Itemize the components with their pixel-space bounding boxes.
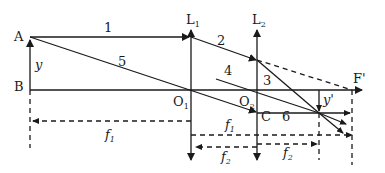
f1-left-label: f1 — [105, 128, 115, 141]
ray-4-label: 4 — [224, 64, 232, 77]
object-height-label: y — [35, 58, 42, 71]
point-o1-label: O1 — [173, 95, 189, 108]
point-c-label: C — [261, 110, 271, 123]
ray-2-label: 2 — [217, 34, 225, 47]
image-height-label: y' — [323, 93, 334, 106]
ray-1-label: 1 — [104, 21, 112, 34]
point-b-label: B — [14, 80, 24, 93]
lens-l2-label: L2 — [252, 13, 266, 26]
f2-right-label: f2 — [283, 146, 293, 159]
emerging-ray-a — [319, 113, 346, 124]
point-a-label: A — [14, 30, 23, 43]
emerging-ray-b — [319, 113, 343, 133]
ray-3-label: 3 — [263, 74, 271, 87]
lens-l1-label: L1 — [186, 13, 200, 26]
f2-left-label: f2 — [221, 150, 231, 163]
ray-6-label: 6 — [282, 110, 290, 123]
point-f-prime-label: F' — [353, 72, 366, 85]
f1-right-label: f1 — [225, 118, 235, 131]
ray-5-label: 5 — [118, 55, 126, 68]
point-o2-label: O2 — [239, 95, 255, 108]
